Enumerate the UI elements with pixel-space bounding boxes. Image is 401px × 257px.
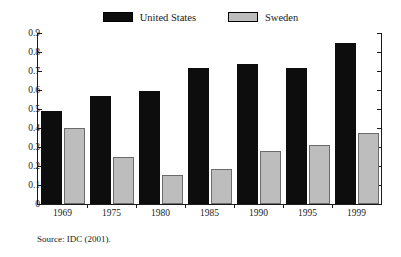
- plot-area: 00.10.20.30.40.50.60.70.80.9: [37, 33, 382, 205]
- bar-united-states-1990: [237, 64, 258, 204]
- bar-united-states-1980: [139, 91, 160, 204]
- legend-label-united-states: United States: [140, 12, 196, 23]
- source-note: Source: IDC (2001).: [37, 234, 111, 245]
- y-axis-tick-label: 0.3: [12, 143, 40, 153]
- x-axis-line: [37, 204, 382, 205]
- x-axis-label-1985: 1985: [200, 208, 219, 219]
- bar-series-container: [38, 33, 381, 204]
- y-axis-tick-label: 0.9: [12, 29, 40, 39]
- bar-group: [283, 33, 332, 204]
- x-axis-label-1995: 1995: [298, 208, 317, 219]
- y-axis-tick-mirror: [377, 204, 381, 205]
- bar-sweden-1990: [260, 151, 281, 204]
- x-axis-label-1990: 1990: [249, 208, 268, 219]
- bar-group: [136, 33, 185, 204]
- x-axis-label-1999: 1999: [347, 208, 366, 219]
- bar-sweden-1995: [309, 145, 330, 204]
- bar-united-states-1985: [188, 68, 209, 204]
- bar-group: [87, 33, 136, 204]
- bar-sweden-1980: [162, 175, 183, 204]
- x-axis-label-1969: 1969: [53, 208, 72, 219]
- bar-group: [332, 33, 381, 204]
- bar-united-states-1999: [335, 43, 356, 204]
- y-axis-right-line: [381, 33, 382, 205]
- y-axis-tick-label: 0.2: [12, 162, 40, 172]
- legend-swatch-sweden-icon: [228, 12, 258, 22]
- x-axis-label-1980: 1980: [151, 208, 170, 219]
- legend-item-united-states: United States: [103, 12, 196, 23]
- legend-item-sweden: Sweden: [228, 12, 298, 23]
- bar-united-states-1995: [286, 68, 307, 204]
- bar-sweden-1999: [358, 133, 379, 204]
- bar-united-states-1969: [41, 111, 62, 204]
- bar-group: [185, 33, 234, 204]
- x-axis-labels: 1969197519801985199019951999: [37, 208, 382, 222]
- y-axis-tick-label: 0.7: [12, 67, 40, 77]
- bar-group: [234, 33, 283, 204]
- y-axis-tick-label: 0.5: [12, 105, 40, 115]
- legend-label-sweden: Sweden: [265, 12, 298, 23]
- x-axis-label-1975: 1975: [102, 208, 121, 219]
- cut-off-caption-artifact: [246, 0, 356, 5]
- legend-swatch-united-states-icon: [103, 12, 133, 22]
- y-axis-tick-label: 0.4: [12, 124, 40, 134]
- bar-group: [38, 33, 87, 204]
- bar-sweden-1985: [211, 169, 232, 204]
- y-axis-tick-label: 0.8: [12, 48, 40, 58]
- y-axis-tick-label: 0.1: [12, 181, 40, 191]
- bar-sweden-1975: [113, 157, 134, 204]
- bar-sweden-1969: [64, 128, 85, 204]
- y-axis-tick-label: 0.6: [12, 86, 40, 96]
- bar-united-states-1975: [90, 96, 111, 204]
- chart-legend: United States Sweden: [0, 10, 401, 24]
- bar-chart-figure: United States Sweden 00.10.20.30.40.50.6…: [0, 0, 401, 257]
- y-axis-tick-label: 0: [12, 200, 40, 210]
